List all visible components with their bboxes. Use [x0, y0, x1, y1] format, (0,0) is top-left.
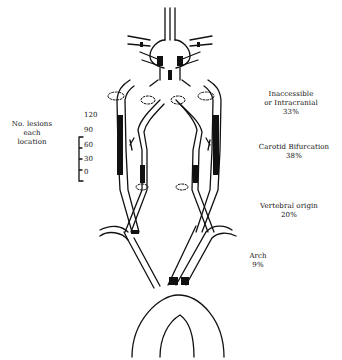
scale-tick: 0: [84, 168, 88, 176]
arterial-diagram: [0, 0, 342, 360]
location-percent: 33%: [246, 108, 336, 117]
scale-tick: 90: [84, 126, 93, 134]
lesion-left-carotid: [117, 115, 123, 175]
scale-title-line: No. lesions: [2, 120, 62, 129]
label-vertebral-origin: Vertebral origin 20%: [246, 202, 332, 220]
scale-tick: 30: [84, 155, 93, 163]
location-percent: 9%: [246, 261, 270, 270]
scale-axis: [79, 137, 83, 181]
aortic-arch: [132, 295, 224, 357]
location-name: Inaccessible: [246, 90, 336, 99]
location-name: Arch: [246, 252, 270, 261]
location-name: or Intracranial: [246, 99, 336, 108]
location-percent: 38%: [246, 152, 342, 161]
location-percent: 20%: [246, 211, 332, 220]
scale-tick: 60: [84, 141, 93, 149]
location-name: Carotid Bifurcation: [246, 143, 342, 152]
location-name: Vertebral origin: [246, 202, 332, 211]
scale-title-line: location: [2, 138, 62, 147]
label-carotid-bifurcation: Carotid Bifurcation 38%: [246, 143, 342, 161]
scale-title-line: each: [2, 129, 62, 138]
scale-tick: 120: [84, 111, 97, 119]
label-arch: Arch 9%: [246, 252, 270, 270]
scale-title: No. lesions each location: [2, 120, 62, 147]
label-intracranial: Inaccessible or Intracranial 33%: [246, 90, 336, 117]
lesion-right-carotid: [213, 115, 219, 175]
